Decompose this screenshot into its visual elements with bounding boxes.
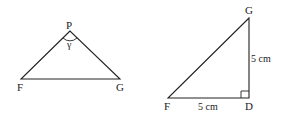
right-triangle-outline xyxy=(168,18,249,98)
triangle-fpg: P γ F G xyxy=(17,19,124,93)
vertex-label-f: F xyxy=(164,100,170,112)
angle-label-gamma: γ xyxy=(66,39,72,50)
vertex-label-g: G xyxy=(116,81,124,93)
vertex-label-g: G xyxy=(245,4,253,16)
vertex-label-p: P xyxy=(66,19,72,31)
vertex-label-d: D xyxy=(245,100,253,112)
side-label-gd: 5 cm xyxy=(251,53,271,64)
right-angle-marker-icon xyxy=(241,91,249,98)
right-triangle-fdg: G F D 5 cm 5 cm xyxy=(164,4,271,112)
diagram-canvas: P γ F G G F D 5 cm 5 cm xyxy=(0,0,294,124)
vertex-label-f: F xyxy=(17,81,23,93)
side-label-fd: 5 cm xyxy=(198,101,218,112)
